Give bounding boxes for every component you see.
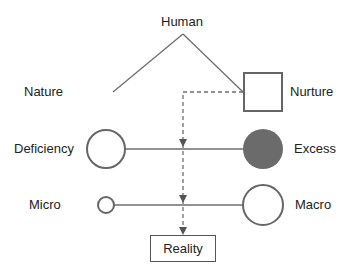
macro-label: Macro	[295, 197, 331, 212]
arrow-head-icon	[179, 227, 187, 235]
reality-label: Reality	[163, 241, 203, 256]
nature-branch-line	[113, 34, 183, 92]
reality-box: Reality	[150, 235, 216, 262]
macro-circle	[243, 185, 283, 225]
deficiency-circle	[87, 130, 125, 168]
nurture-square	[244, 73, 282, 111]
excess-label: Excess	[294, 141, 336, 156]
nurture-label: Nurture	[290, 84, 333, 99]
human-label: Human	[161, 14, 203, 29]
arrow-head-icon	[179, 195, 187, 203]
deficiency-label: Deficiency	[14, 141, 74, 156]
nature-label: Nature	[24, 84, 63, 99]
micro-circle	[98, 197, 114, 213]
arrow-head-icon	[179, 139, 187, 147]
micro-label: Micro	[29, 197, 61, 212]
nurture-branch-line	[183, 34, 243, 92]
dashed-path	[183, 92, 243, 228]
excess-circle	[243, 129, 283, 169]
